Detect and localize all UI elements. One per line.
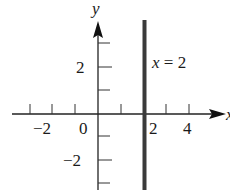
x-tick-label-neg2: −2 (33, 119, 51, 138)
y-ticks (98, 43, 112, 183)
x-tick-label-4: 4 (183, 119, 192, 138)
line-annotation: x = 2 (151, 53, 186, 72)
x-ticks (30, 104, 189, 114)
y-axis-label: y (90, 0, 100, 18)
x-axis-label: x (225, 105, 230, 124)
coordinate-plane: y x −2 0 2 4 2 −2 x = 2 (0, 0, 230, 190)
y-tick-label-neg2: −2 (63, 151, 81, 170)
x-tick-label-2: 2 (149, 119, 158, 138)
line-annotation-value: = 2 (160, 53, 187, 72)
y-tick-label-2: 2 (76, 58, 85, 77)
x-tick-label-0: 0 (79, 119, 88, 138)
